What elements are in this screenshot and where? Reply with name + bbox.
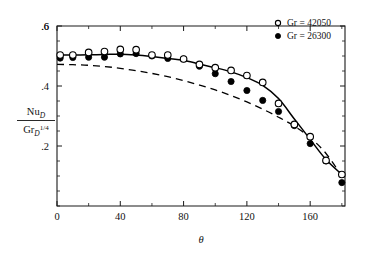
x-axis-ticks (57, 26, 342, 206)
y-tick-label: .4 (41, 81, 50, 92)
data-point-open (180, 56, 187, 63)
data-point-open (164, 52, 171, 59)
x-axis-tick-labels: 04080120160 (54, 211, 318, 222)
data-point-open (117, 46, 124, 53)
axis-frame-path (57, 26, 345, 206)
data-point-open (101, 48, 108, 55)
data-point-open (57, 52, 64, 59)
legend-marker-open-circle (275, 20, 280, 25)
data-point-open (323, 157, 330, 164)
y-axis-title-numerator: NuD (27, 106, 46, 120)
data-point-open (212, 64, 219, 71)
data-point-filled (228, 78, 234, 84)
legend-label: Gr = 26300 (287, 31, 331, 41)
data-point-open (133, 46, 140, 53)
dashed-reference-curve (57, 64, 342, 176)
x-tick-label: 80 (178, 211, 189, 222)
plot-frame (57, 26, 345, 206)
data-point-open (196, 61, 203, 68)
x-tick-label: 160 (302, 211, 318, 222)
data-point-open (85, 49, 92, 56)
x-tick-label: 0 (54, 211, 59, 222)
data-point-filled (307, 141, 313, 147)
figure-container: .2.4.6.6 04080120160 NuD GrD1/4 θ Gr = 4… (0, 0, 376, 260)
y-axis-title: NuD GrD1/4 (17, 106, 55, 138)
y-axis-title-denominator: GrD1/4 (23, 124, 49, 138)
x-tick-label: 120 (239, 211, 255, 222)
legend-marker-filled-circle (275, 33, 280, 38)
data-point-open (244, 72, 251, 79)
data-point-filled (339, 180, 345, 186)
data-point-filled (275, 108, 281, 114)
chart-legend: Gr = 42050Gr = 26300 (275, 18, 331, 41)
data-series-gr-42050 (57, 46, 345, 178)
data-point-filled (260, 97, 266, 103)
y-axis-tick-labels: .2.4.6.6 (41, 21, 50, 152)
data-point-open (339, 171, 346, 178)
legend-label: Gr = 42050 (287, 18, 331, 28)
data-point-open (228, 67, 235, 74)
data-point-filled (244, 87, 250, 93)
y-tick-label: .2 (41, 141, 49, 152)
data-point-open (70, 52, 77, 59)
data-point-open (291, 121, 298, 128)
data-point-open (307, 133, 314, 140)
x-tick-label: 40 (115, 211, 126, 222)
y-axis-ticks (57, 26, 345, 206)
solid-fit-curve (57, 54, 342, 174)
data-point-open (149, 52, 156, 59)
y-tick-label-top: .6 (41, 21, 49, 32)
data-series-gr-26300 (57, 51, 345, 186)
data-point-open (275, 100, 282, 107)
x-axis-title: θ (198, 234, 203, 245)
data-point-open (259, 79, 266, 86)
chart-canvas: .2.4.6.6 04080120160 NuD GrD1/4 θ Gr = 4… (0, 0, 376, 260)
